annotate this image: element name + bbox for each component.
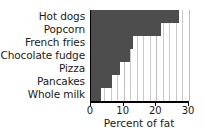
bar-row bbox=[91, 88, 189, 101]
bar-row bbox=[91, 10, 189, 23]
category-label: Hot dogs bbox=[0, 10, 88, 23]
bar bbox=[91, 10, 179, 23]
plot-area bbox=[90, 10, 189, 101]
x-axis-title: Percent of fat bbox=[90, 117, 188, 129]
bar-series bbox=[91, 10, 189, 101]
bar-row bbox=[91, 23, 189, 36]
bar-row bbox=[91, 36, 189, 49]
gridline bbox=[189, 10, 190, 101]
tick-label: 0 bbox=[87, 105, 93, 116]
category-label: Pizza bbox=[0, 62, 88, 75]
bar bbox=[91, 88, 101, 101]
category-label: Whole milk bbox=[0, 88, 88, 101]
bar bbox=[91, 23, 161, 36]
bar-row bbox=[91, 49, 189, 62]
bar-row bbox=[91, 75, 189, 88]
bar bbox=[91, 36, 133, 49]
category-label: Pancakes bbox=[0, 75, 88, 88]
bar-row bbox=[91, 62, 189, 75]
bar-chart: Hot dogsPopcornFrench friesChocolate fud… bbox=[0, 0, 204, 133]
category-label: Chocolate fudge bbox=[0, 49, 88, 62]
bar bbox=[91, 49, 130, 62]
x-axis-tick-labels: 0102030 bbox=[90, 103, 188, 115]
bar bbox=[91, 62, 120, 75]
category-axis-labels: Hot dogsPopcornFrench friesChocolate fud… bbox=[0, 10, 88, 101]
bar bbox=[91, 75, 112, 88]
tick-label: 20 bbox=[149, 105, 162, 116]
category-label: French fries bbox=[0, 36, 88, 49]
tick-label: 30 bbox=[182, 105, 195, 116]
category-label: Popcorn bbox=[0, 23, 88, 36]
tick-label: 10 bbox=[116, 105, 129, 116]
